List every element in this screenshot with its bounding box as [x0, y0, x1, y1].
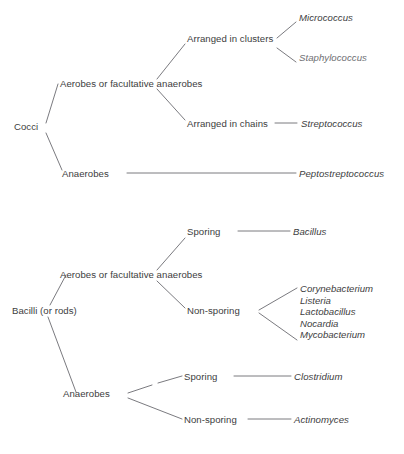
node-cocci-root[interactable]: Cocci — [14, 121, 38, 132]
edge-cocci-aerobes — [46, 84, 58, 123]
edge-clusters-staphylococcus — [277, 48, 296, 62]
edge-nonsporing-corynebacterium — [259, 288, 297, 310]
taxon-nocardia: Nocardia — [300, 318, 373, 330]
taxon-list-nonsporing[interactable]: Corynebacterium Listeria Lactobacillus N… — [300, 283, 373, 341]
taxon-corynebacterium: Corynebacterium — [300, 283, 373, 295]
taxon-micrococcus[interactable]: Micrococcus — [299, 12, 353, 23]
taxon-staphylococcus[interactable]: Staphylococcus — [299, 52, 367, 63]
edge-aerobes-nonsporing — [157, 281, 185, 308]
node-bacilli-anaerobes[interactable]: Anaerobes — [63, 388, 110, 399]
edge-nonsporing-mycobacterium — [259, 313, 297, 340]
edge-anaerobes-sporing-b — [158, 376, 182, 383]
taxon-actinomyces[interactable]: Actinomyces — [294, 414, 349, 425]
taxon-bacillus[interactable]: Bacillus — [293, 226, 326, 237]
node-nonsporing-anaerobic[interactable]: Non-sporing — [184, 414, 237, 425]
node-arranged-in-chains[interactable]: Arranged in chains — [187, 118, 268, 129]
node-bacilli-aerobes[interactable]: Aerobes or facultative anaerobes — [60, 269, 202, 280]
taxon-clostridium[interactable]: Clostridium — [294, 371, 343, 382]
edge-aerobes-sporing — [157, 238, 185, 270]
node-cocci-anaerobes[interactable]: Anaerobes — [62, 168, 109, 179]
edge-cocci-anaerobes — [46, 133, 62, 170]
taxon-streptococcus[interactable]: Streptococcus — [301, 118, 362, 129]
edge-anaerobes-nonsporing — [128, 398, 182, 419]
edge-aerobes-clusters — [157, 44, 185, 79]
edge-anaerobes-sporing-a — [128, 385, 152, 393]
taxon-peptostreptococcus[interactable]: Peptostreptococcus — [299, 168, 384, 179]
taxon-lactobacillus: Lactobacillus — [300, 306, 373, 318]
edge-aerobes-chains — [157, 89, 185, 120]
node-sporing-anaerobic[interactable]: Sporing — [184, 371, 217, 382]
node-cocci-aerobes[interactable]: Aerobes or facultative anaerobes — [60, 78, 202, 89]
edge-clusters-micrococcus — [277, 22, 296, 38]
node-sporing-aerobic[interactable]: Sporing — [187, 226, 220, 237]
taxon-listeria: Listeria — [300, 295, 373, 307]
node-arranged-in-clusters[interactable]: Arranged in clusters — [187, 33, 273, 44]
node-nonsporing-aerobic[interactable]: Non-sporing — [187, 305, 240, 316]
edge-bacilli-anaerobes — [48, 317, 76, 392]
diagram-canvas: Cocci Aerobes or facultative anaerobes A… — [0, 0, 404, 454]
taxon-mycobacterium: Mycobacterium — [300, 329, 373, 341]
node-bacilli-root[interactable]: Bacilli (or rods) — [12, 305, 77, 316]
